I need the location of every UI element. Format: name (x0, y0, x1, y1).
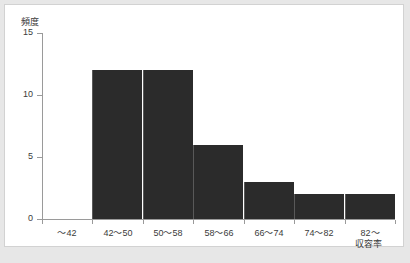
x-tick-mark (244, 220, 245, 224)
histogram-bar (244, 182, 294, 219)
y-tick-mark (37, 33, 42, 34)
x-tick-label: 66～74 (254, 228, 283, 238)
x-tick-label: 82～ (360, 228, 379, 238)
y-tick-label: 10 (0, 90, 33, 99)
histogram-bar (143, 70, 193, 219)
histogram-plot: 頻度 051015 ～4242～5050～5858～6666～7474～8282… (5, 5, 405, 248)
x-tick-mark (294, 220, 295, 224)
y-tick-mark (37, 95, 42, 96)
histogram-bar (92, 70, 142, 219)
histogram-bar (193, 145, 243, 219)
x-tick-mark (42, 220, 43, 224)
y-axis-line (42, 33, 43, 220)
histogram-bar (294, 194, 344, 219)
x-axis-title: 収容率 (355, 239, 382, 249)
x-tick-label: 42～50 (103, 228, 132, 238)
chart-card: 頻度 051015 ～4242～5050～5858～6666～7474～8282… (4, 4, 404, 247)
x-tick-mark (395, 220, 396, 224)
x-tick-label: 74～82 (304, 228, 333, 238)
y-tick-mark (37, 157, 42, 158)
x-tick-mark (193, 220, 194, 224)
y-tick-label: 0 (0, 214, 33, 223)
x-tick-mark (143, 220, 144, 224)
x-tick-label: ～42 (57, 228, 76, 238)
x-tick-label: 58～66 (204, 228, 233, 238)
histogram-bar (345, 194, 395, 219)
y-tick-label: 5 (0, 152, 33, 161)
y-axis-title: 頻度 (21, 17, 39, 27)
y-tick-label: 15 (0, 28, 33, 37)
x-tick-label: 50～58 (153, 228, 182, 238)
x-tick-mark (92, 220, 93, 224)
x-tick-mark (345, 220, 346, 224)
x-axis-line (42, 219, 395, 220)
